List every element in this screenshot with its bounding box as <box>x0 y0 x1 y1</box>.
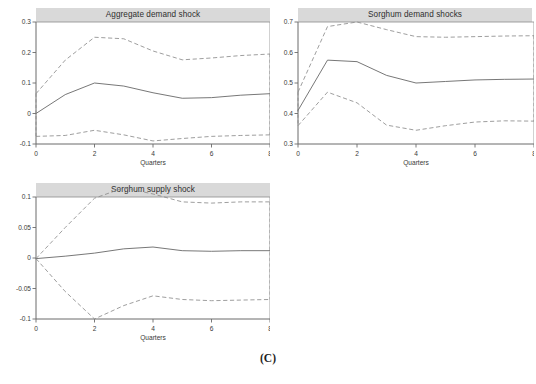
plot-frame <box>36 22 270 144</box>
x-tick-label: 8 <box>268 150 270 157</box>
y-tick-label: 0.3 <box>22 18 31 25</box>
x-tick-label: 0 <box>296 150 300 157</box>
x-tick-label: 4 <box>151 150 155 157</box>
y-tick-label: 0.5 <box>284 79 293 86</box>
panel-sorghum-supply-shock: Sorghum supply shock -0.1-0.0500.050.102… <box>12 183 270 355</box>
y-tick-label: 0.05 <box>18 224 31 231</box>
x-tick-label: 8 <box>532 150 534 157</box>
y-tick-label: 0.1 <box>22 193 31 200</box>
x-tick-label: 6 <box>210 150 214 157</box>
panel-aggregate-demand-shock: Aggregate demand shock -0.100.10.20.3024… <box>12 8 270 180</box>
confidence-band-line <box>36 130 270 141</box>
confidence-band-line <box>36 37 270 93</box>
x-tick-label: 6 <box>210 325 214 332</box>
y-tick-label: 0 <box>27 254 31 261</box>
x-tick-label: 4 <box>151 325 155 332</box>
impulse-response-line <box>36 83 270 114</box>
x-axis-title: Quarters <box>140 159 166 167</box>
plot-area-aggregate-demand-shock: -0.100.10.20.302468Quarters <box>12 8 270 180</box>
confidence-band-line <box>36 259 270 319</box>
figure-caption: (C) <box>0 352 536 364</box>
y-tick-label: 0.6 <box>284 49 293 56</box>
confidence-band-line <box>36 188 270 259</box>
y-tick-label: 0.4 <box>284 110 293 117</box>
panel-sorghum-demand-shocks: Sorghum demand shocks 0.30.40.50.60.7024… <box>272 8 534 180</box>
y-tick-label: 0.2 <box>22 49 31 56</box>
x-tick-label: 2 <box>93 150 97 157</box>
confidence-band-line <box>298 22 534 92</box>
y-tick-label: -0.1 <box>20 315 32 322</box>
impulse-response-line <box>298 60 534 110</box>
y-tick-label: -0.1 <box>20 140 32 147</box>
plot-area-sorghum-supply-shock: -0.1-0.0500.050.102468Quarters <box>12 183 270 355</box>
x-tick-label: 2 <box>355 150 359 157</box>
x-axis-title: Quarters <box>403 159 429 167</box>
x-tick-label: 2 <box>93 325 97 332</box>
x-tick-label: 8 <box>268 325 270 332</box>
impulse-response-line <box>36 247 270 259</box>
y-tick-label: 0.3 <box>284 140 293 147</box>
y-tick-label: 0.7 <box>284 18 293 25</box>
x-tick-label: 4 <box>414 150 418 157</box>
x-tick-label: 0 <box>34 150 38 157</box>
y-tick-label: -0.05 <box>16 285 31 292</box>
x-axis-title: Quarters <box>140 334 166 342</box>
impulse-response-figure: Aggregate demand shock -0.100.10.20.3024… <box>0 0 536 384</box>
x-tick-label: 6 <box>473 150 477 157</box>
plot-area-sorghum-demand-shocks: 0.30.40.50.60.702468Quarters <box>272 8 534 180</box>
y-tick-label: 0.1 <box>22 79 31 86</box>
y-tick-label: 0 <box>27 110 31 117</box>
plot-frame <box>36 197 270 319</box>
x-tick-label: 0 <box>34 325 38 332</box>
confidence-band-line <box>298 92 534 130</box>
